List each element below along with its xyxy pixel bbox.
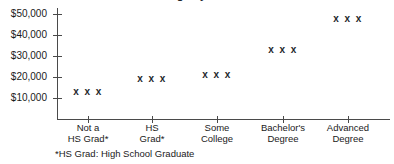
y-axis-tick: $20,000 bbox=[53, 77, 62, 78]
chart-figure: Median Annual Earnings by Educational At… bbox=[0, 0, 394, 164]
y-axis-tick: $50,000 bbox=[53, 14, 62, 15]
y-axis-tick-label: $50,000 bbox=[11, 9, 47, 19]
data-point-marker: x x x bbox=[73, 87, 103, 97]
x-axis-category-label: Advanced Degree bbox=[327, 123, 369, 144]
data-point-marker: x x x bbox=[333, 14, 363, 24]
y-axis-tick: $10,000 bbox=[53, 98, 62, 99]
x-axis-category-label: HS Grad* bbox=[140, 123, 165, 144]
data-point-marker: x x x bbox=[268, 45, 298, 55]
y-axis-tick-label: $20,000 bbox=[11, 72, 47, 82]
data-point-marker: x x x bbox=[137, 74, 167, 84]
x-axis-category-label: Bachelor's Degree bbox=[261, 123, 305, 144]
y-axis-tick-label: $30,000 bbox=[11, 51, 47, 61]
chart-title: Median Annual Earnings by Educational At… bbox=[0, 0, 394, 1]
y-axis-tick: $30,000 bbox=[53, 56, 62, 57]
y-axis-tick-label: $40,000 bbox=[11, 30, 47, 40]
x-axis-category-label: Not a HS Grad* bbox=[68, 123, 109, 144]
y-axis-line bbox=[57, 8, 58, 120]
data-point-marker: x x x bbox=[202, 70, 232, 80]
x-axis-line bbox=[57, 119, 390, 120]
chart-footnote: *HS Grad: High School Graduate bbox=[55, 148, 194, 159]
y-axis-tick-label: $10,000 bbox=[11, 93, 47, 103]
y-axis-tick: $40,000 bbox=[53, 35, 62, 36]
x-axis-category-label: Some College bbox=[201, 123, 233, 144]
plot-area: $50,000 $40,000 $30,000 $20,000 $10,000 … bbox=[57, 8, 390, 120]
